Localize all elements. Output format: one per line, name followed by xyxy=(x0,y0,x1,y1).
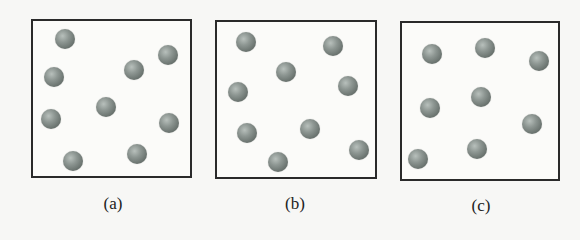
particle-icon xyxy=(96,97,116,117)
particle-icon xyxy=(124,60,144,80)
particle-icon xyxy=(159,113,179,133)
particle-icon xyxy=(276,62,296,82)
particle-icon xyxy=(236,32,256,52)
particle-icon xyxy=(467,139,487,159)
panel-b-label: (b) xyxy=(285,194,305,214)
particle-icon xyxy=(228,82,248,102)
particle-icon xyxy=(323,36,343,56)
particle-icon xyxy=(522,114,542,134)
particle-icon xyxy=(420,98,440,118)
particle-icon xyxy=(338,76,358,96)
particle-icon xyxy=(127,144,147,164)
particle-icon xyxy=(529,51,549,71)
particle-icon xyxy=(63,151,83,171)
particle-icon xyxy=(158,45,178,65)
particle-icon xyxy=(475,38,495,58)
particle-icon xyxy=(44,67,64,87)
particle-icon xyxy=(237,123,257,143)
panel-a-label: (a) xyxy=(104,194,123,214)
panel-c-label: (c) xyxy=(472,196,491,216)
particle-icon xyxy=(471,87,491,107)
particle-icon xyxy=(349,140,369,160)
particle-icon xyxy=(41,109,61,129)
particle-icon xyxy=(268,152,288,172)
particle-icon xyxy=(408,149,428,169)
particle-icon xyxy=(300,119,320,139)
particle-icon xyxy=(422,44,442,64)
particle-icon xyxy=(55,29,75,49)
